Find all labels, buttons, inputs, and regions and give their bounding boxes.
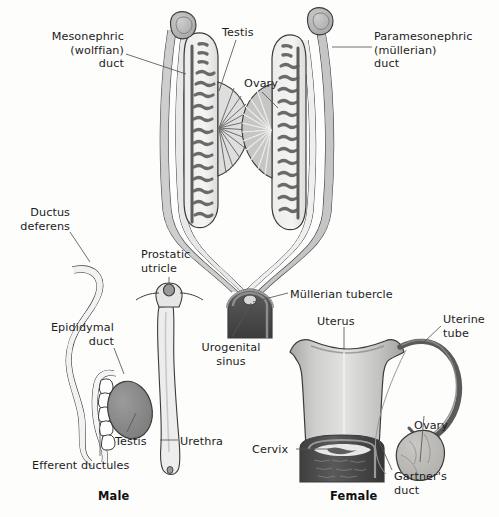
label-uterine-tube: Uterine tube [443, 313, 499, 340]
female-panel-group [290, 326, 459, 482]
mullerian-tubercle-node [244, 295, 257, 305]
label-urogenital-sinus: Urogenital sinus [188, 341, 274, 368]
label-cervix: Cervix [252, 443, 302, 457]
label-gartners-duct: Gartner's duct [394, 470, 464, 497]
caption-female: Female [330, 489, 377, 503]
prostatic-utricle-node [164, 284, 175, 296]
label-uterus: Uterus [317, 315, 371, 329]
label-epididymal-duct: Epididymal duct [28, 321, 114, 348]
label-paramesonephric-duct: Paramesonephric (müllerian) duct [374, 30, 496, 71]
label-mesonephric-duct: Mesonephric (wolffian) duct [8, 30, 124, 71]
leader-ductus-deferens [70, 232, 90, 262]
label-ovary: Ovary [244, 77, 294, 91]
figure-root: Mesonephric (wolffian) duct Testis Param… [0, 0, 499, 517]
caption-male: Male [98, 489, 129, 503]
label-testis: Testis [222, 26, 282, 40]
leader-testis [219, 40, 236, 91]
label-prostatic-utricle: Prostatic utricle [141, 248, 211, 275]
leader-epididymal-duct [114, 348, 124, 374]
label-mullerian-tubercle: Müllerian tubercle [290, 288, 420, 302]
label-urethra: Urethra [180, 435, 240, 449]
urethra-distal-tip [167, 467, 173, 474]
label-efferent-ductules: Efferent ductules [32, 459, 152, 473]
leader-mesonephric-duct [126, 54, 186, 74]
cervix-vagina-block [300, 435, 384, 482]
leader-uterine-tube [424, 326, 441, 342]
urethra-lateral-wing-right [180, 293, 203, 300]
label-ovary-female: Ovary [414, 419, 464, 433]
label-ductus-deferens: Ductus deferens [4, 206, 70, 233]
label-testis-male: Testis [115, 435, 163, 449]
